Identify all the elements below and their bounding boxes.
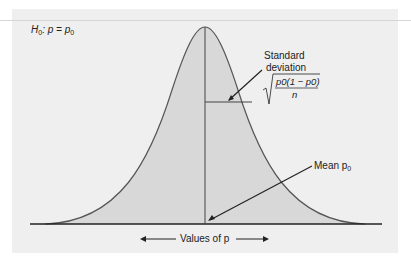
sd-formula-denominator: n <box>292 89 297 100</box>
sd-label-line1: Standard <box>264 50 305 62</box>
hypothesis-label: H0: p = p0 <box>31 24 74 39</box>
arrow-left-head <box>140 236 146 242</box>
arrow-right-head <box>263 236 269 242</box>
mean-label: Mean p0 <box>314 160 351 175</box>
normal-curve-diagram <box>0 0 411 267</box>
sd-formula-numerator: p0(1 − p0) <box>276 76 320 87</box>
axis-label: Values of p <box>180 233 229 245</box>
sd-label-line2: deviation <box>266 62 306 74</box>
